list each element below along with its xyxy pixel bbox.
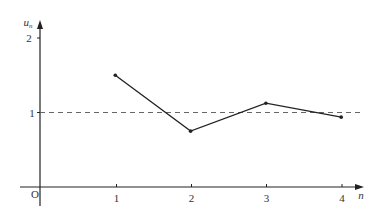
series-line	[115, 75, 341, 131]
data-point-4	[339, 115, 343, 119]
y-axis-label-sub: n	[29, 22, 33, 30]
x-tick-label-4: 4	[339, 192, 345, 204]
x-tick-label-1: 1	[114, 192, 120, 204]
y-axis-label: un	[24, 16, 34, 30]
sequence-chart: 2 1 1 2 3 4 O n un	[0, 0, 391, 221]
x-tick-label-2: 2	[189, 192, 195, 204]
data-point-2	[189, 129, 193, 133]
y-axis-arrow-icon	[37, 20, 43, 29]
x-tick-label-3: 3	[264, 192, 270, 204]
series-u-n	[114, 73, 344, 132]
origin-label: O	[31, 188, 39, 200]
y-tick-label-1: 1	[29, 107, 35, 119]
data-point-3	[264, 101, 268, 105]
data-point-1	[114, 73, 118, 77]
y-tick-label-2: 2	[26, 32, 32, 44]
x-axis-label: n	[358, 189, 364, 201]
